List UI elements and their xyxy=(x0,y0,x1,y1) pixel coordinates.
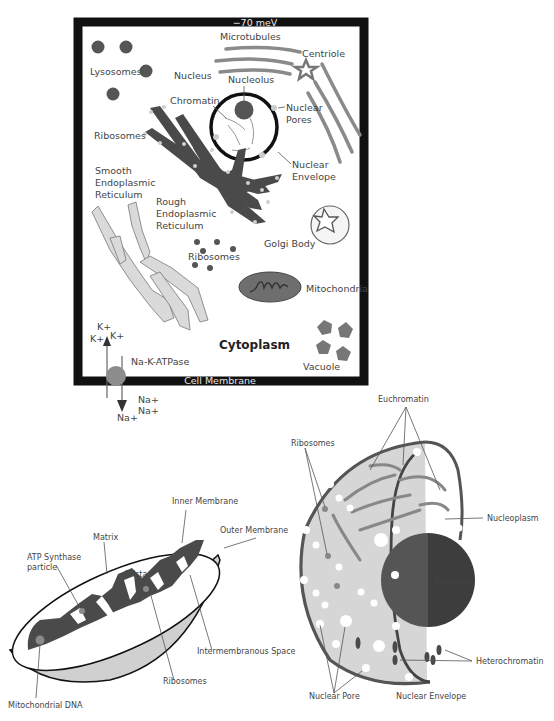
smooth-er-label-2: Endoplasmic xyxy=(95,177,155,188)
nucleus-panel: Nucleolus xyxy=(291,395,544,701)
mito-ribosome xyxy=(143,586,149,592)
crista-label: Crista xyxy=(124,570,147,579)
nucleoplasm-label: Nucleoplasm xyxy=(487,514,539,523)
inner-membrane-label: Inner Membrane xyxy=(172,497,238,506)
pump-label: Na-K-ATPase xyxy=(131,356,189,367)
nucleolus-label: Nucleolus xyxy=(434,577,473,586)
smooth-er-label-3: Reticulum xyxy=(95,189,143,200)
mitochondria xyxy=(239,272,301,302)
centriole-label: Centriole xyxy=(302,48,345,59)
atp-synthase-label-2: particle xyxy=(27,563,57,572)
k-ion-2: K+ xyxy=(90,333,104,344)
intermembranous-space-label: Intermembranous Space xyxy=(197,647,296,656)
outer-membrane-label: Outer Membrane xyxy=(220,526,288,535)
nucleus-ribosomes-label: Ribosomes xyxy=(291,439,335,448)
smooth-er-label-1: Smooth xyxy=(95,165,132,176)
nuclear-envelope-label: Nuclear Envelope xyxy=(396,692,466,701)
rough-er-label-3: Reticulum xyxy=(156,220,204,231)
rough-er-label-1: Rough xyxy=(156,196,186,207)
mitochondrion-panel: Inner Membrane Outer Membrane Matrix ATP… xyxy=(0,497,296,710)
euchromatin-label: Euchromatin xyxy=(378,395,429,404)
atp-synthase-particle xyxy=(79,608,85,614)
cytoplasm-label: Cytoplasm xyxy=(219,338,290,352)
nuclear-pore-label: Nuclear Pore xyxy=(309,692,360,701)
lysosomes-label: Lysosomes xyxy=(90,66,142,77)
membrane-potential-label: −70 meV xyxy=(233,17,278,28)
animal-cell-panel: −70 meV Cell Membrane Lysosomes Microtub… xyxy=(78,17,368,423)
nuclear-envelope-label-1: Nuclear xyxy=(292,159,329,170)
nucleolus-label: Nucleolus xyxy=(228,74,274,85)
arrow-down-icon xyxy=(117,400,127,412)
chromatin-label: Chromatin xyxy=(170,95,220,106)
k-ion-3: K+ xyxy=(110,330,124,341)
mito-dna-label: Mitochondrial DNA xyxy=(8,701,83,710)
mito-dna xyxy=(36,636,45,645)
right-envelope-arc xyxy=(425,442,462,540)
cell-biology-diagram: −70 meV Cell Membrane Lysosomes Microtub… xyxy=(0,0,554,721)
cell-membrane-label: Cell Membrane xyxy=(184,375,256,386)
na-ion-1: Na+ xyxy=(138,394,159,405)
ribosomes-free-label: Ribosomes xyxy=(188,251,240,262)
nuclear-pores-label-1: Nuclear xyxy=(286,102,323,113)
matrix-label: Matrix xyxy=(93,533,118,542)
vacuole-label: Vacuole xyxy=(303,361,340,372)
microtubules-label: Microtubules xyxy=(220,31,281,42)
ribosomes-label-top: Ribosomes xyxy=(94,130,146,141)
rough-er-label-2: Endoplasmic xyxy=(156,208,216,219)
nuclear-envelope-label-2: Envelope xyxy=(292,171,336,182)
atp-synthase-label-1: ATP Synthase xyxy=(27,553,81,562)
golgi-label: Golgi Body xyxy=(264,238,316,249)
mito-ribosomes-label: Ribosomes xyxy=(163,677,207,686)
heterochromatin-label: Heterochromatin xyxy=(476,657,544,666)
mitochondria-label: Mitochondria xyxy=(306,283,368,294)
nucleus-label: Nucleus xyxy=(174,70,212,81)
na-ion-3: Na+ xyxy=(117,412,138,423)
na-ion-2: Na+ xyxy=(138,405,159,416)
nuclear-pores-label-2: Pores xyxy=(286,114,312,125)
